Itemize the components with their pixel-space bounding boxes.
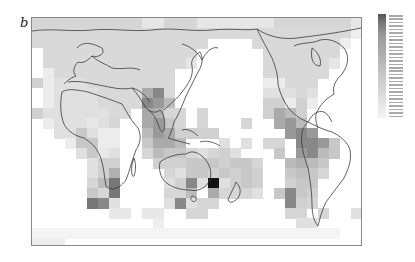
- colorbar-tick-label: [389, 74, 403, 76]
- colorbar-tick-label: [389, 88, 403, 90]
- colorbar-tick-label: [389, 77, 403, 79]
- colorbar-tick-label: [389, 102, 403, 104]
- colorbar-tick-label: [389, 50, 403, 52]
- colorbar-tick-label: [389, 81, 403, 83]
- colorbar-tick-label: [389, 32, 403, 34]
- colorbar-tick-label: [389, 98, 403, 100]
- colorbar-tick-label: [389, 53, 403, 55]
- colorbar-tick-label: [389, 91, 403, 93]
- colorbar-tick-label: [389, 67, 403, 69]
- colorbar-tick-label: [389, 29, 403, 31]
- colorbar-tick-label: [389, 57, 403, 59]
- colorbar-tick-label: [389, 70, 403, 72]
- colorbar-tick-label: [389, 112, 403, 114]
- colorbar-tick-label: [389, 25, 403, 27]
- colorbar-tick-label: [389, 64, 403, 66]
- colorbar-tick-label: [389, 95, 403, 97]
- colorbar-tick-label: [389, 36, 403, 38]
- colorbar-tick-label: [389, 109, 403, 111]
- colorbar-tick-label: [389, 18, 403, 20]
- colorbar-tick-label: [389, 84, 403, 86]
- coastlines: [32, 18, 361, 245]
- colorbar-tick-label: [389, 15, 403, 17]
- colorbar-tick-label: [389, 43, 403, 45]
- colorbar-tick-label: [389, 22, 403, 24]
- colorbar-tick-label: [389, 105, 403, 107]
- colorbar: [378, 14, 386, 118]
- colorbar-tick-label: [389, 116, 403, 118]
- panel-label: b: [20, 15, 28, 30]
- colorbar-tick-labels: [389, 14, 409, 118]
- colorbar-tick-label: [389, 39, 403, 41]
- world-map-heatmap: [31, 17, 362, 246]
- colorbar-tick-label: [389, 46, 403, 48]
- colorbar-tick-label: [389, 60, 403, 62]
